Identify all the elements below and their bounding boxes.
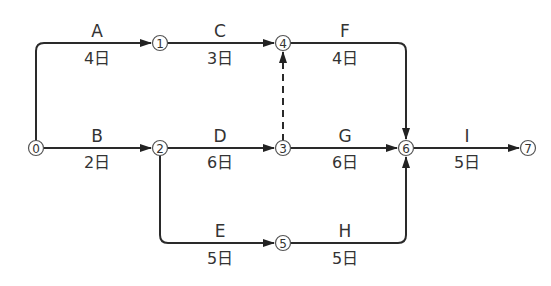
activity-i-name: I (464, 126, 469, 146)
svg-text:4: 4 (279, 37, 287, 51)
activity-e-duration: 5日 (207, 249, 233, 268)
node-2: 2 (153, 141, 168, 156)
svg-text:7: 7 (524, 142, 532, 156)
svg-text:6: 6 (402, 142, 410, 156)
activity-f-duration: 4日 (332, 49, 358, 68)
diagram-svg: 0 1 2 3 4 5 6 7 A 4日 B 2日 C 3日 D 6日 E 5日… (0, 0, 551, 286)
activity-a-name: A (91, 21, 103, 41)
activity-e-name: E (215, 221, 226, 241)
activity-c-duration: 3日 (207, 49, 233, 68)
node-0: 0 (29, 141, 44, 156)
node-3: 3 (276, 141, 291, 156)
svg-text:0: 0 (32, 142, 40, 156)
svg-text:5: 5 (279, 237, 287, 251)
activity-g-duration: 6日 (332, 153, 358, 172)
svg-text:2: 2 (156, 142, 164, 156)
svg-text:3: 3 (279, 142, 287, 156)
node-6: 6 (399, 141, 414, 156)
node-1: 1 (153, 36, 168, 51)
activity-c-name: C (214, 21, 226, 41)
activity-b-duration: 2日 (84, 153, 110, 172)
activity-f-name: F (340, 21, 350, 41)
activity-b-name: B (91, 126, 103, 146)
svg-text:1: 1 (156, 37, 164, 51)
node-7: 7 (521, 141, 536, 156)
activity-d-name: D (213, 126, 226, 146)
network-diagram: 0 1 2 3 4 5 6 7 A 4日 B 2日 C 3日 D 6日 E 5日… (0, 0, 551, 286)
activity-i-duration: 5日 (454, 153, 480, 172)
activity-h-name: H (339, 221, 352, 241)
activity-a-duration: 4日 (84, 49, 110, 68)
node-5: 5 (276, 236, 291, 251)
node-4: 4 (276, 36, 291, 51)
activity-h-duration: 5日 (332, 249, 358, 268)
activity-d-duration: 6日 (207, 153, 233, 172)
activity-g-name: G (338, 126, 351, 146)
